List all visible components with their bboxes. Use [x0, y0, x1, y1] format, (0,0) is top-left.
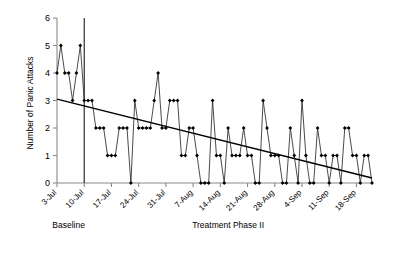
data-point-marker [312, 181, 316, 185]
y-tick-label: 1 [45, 151, 50, 161]
data-point-marker [145, 126, 149, 130]
x-tick-label: 10-Jul [64, 188, 86, 210]
data-point-marker [187, 126, 191, 130]
data-point-marker [242, 126, 246, 130]
x-tick-label: 11-Sep [306, 188, 331, 213]
data-point-marker [113, 154, 117, 158]
x-tick-label: 21-Aug [224, 188, 249, 213]
data-point-marker [90, 99, 94, 103]
data-point-marker [347, 126, 351, 130]
data-point-marker [308, 181, 312, 185]
data-point-marker [304, 154, 308, 158]
data-point-marker [82, 99, 86, 103]
data-point-marker [343, 126, 347, 130]
y-tick-label: 0 [45, 178, 50, 188]
data-point-marker [168, 99, 172, 103]
trend-line [57, 99, 372, 178]
y-axis-ticks: 0123456 [45, 13, 57, 188]
data-point-marker [191, 126, 195, 130]
data-point-marker [335, 154, 339, 158]
y-tick-label: 5 [45, 41, 50, 51]
data-point-marker [265, 126, 269, 130]
data-point-marker [207, 181, 211, 185]
x-axis-ticks: 3-Jul10-Jul17-Jul24-Jul31-Jul7-Aug14-Aug… [40, 183, 358, 213]
data-point-marker [160, 126, 164, 130]
data-point-marker [203, 181, 207, 185]
data-point-marker [351, 154, 355, 158]
data-point-marker [67, 71, 71, 75]
data-point-marker [176, 99, 180, 103]
x-tick-label: 24-Jul [118, 188, 140, 210]
data-point-marker [137, 126, 141, 130]
data-point-marker [362, 154, 366, 158]
data-point-marker [339, 181, 343, 185]
data-point-marker [257, 181, 261, 185]
data-point-marker [71, 99, 75, 103]
x-tick-label: 17-Jul [91, 188, 113, 210]
data-point-marker [156, 71, 160, 75]
x-tick-label: 4-Sep [282, 188, 304, 210]
data-point-marker [366, 154, 370, 158]
phase-labels-group: BaselineTreatment Phase II [52, 220, 264, 230]
x-tick-label: 28-Aug [252, 188, 277, 213]
data-point-marker [253, 181, 257, 185]
x-tick-label: 18-Sep [333, 188, 358, 213]
data-point-marker [125, 126, 129, 130]
x-tick-label: 31-Jul [146, 188, 168, 210]
data-point-marker [288, 126, 292, 130]
y-tick-label: 2 [45, 123, 50, 133]
data-point-marker [117, 126, 121, 130]
data-point-marker [195, 154, 199, 158]
data-point-marker [230, 154, 234, 158]
data-point-marker [55, 71, 59, 75]
x-tick-label: 3-Jul [40, 188, 59, 207]
data-point-marker [172, 99, 176, 103]
phase-label: Treatment Phase II [192, 220, 264, 230]
data-point-marker [358, 181, 362, 185]
data-point-marker [327, 181, 331, 185]
data-point-marker [238, 154, 242, 158]
data-point-marker [75, 71, 79, 75]
data-point-marker [269, 154, 273, 158]
data-point-marker [121, 126, 125, 130]
data-point-marker [86, 99, 90, 103]
data-point-marker [222, 181, 226, 185]
data-point-marker [296, 181, 300, 185]
panic-attacks-chart: Number of Panic Attacks 0123456 3-Jul10-… [0, 0, 410, 256]
data-point-marker [218, 154, 222, 158]
data-point-marker [102, 126, 106, 130]
data-point-marker [183, 154, 187, 158]
data-point-marker [250, 154, 254, 158]
chart-canvas: Number of Panic Attacks 0123456 3-Jul10-… [0, 0, 410, 256]
data-point-marker [234, 154, 238, 158]
y-tick-label: 3 [45, 96, 50, 106]
x-tick-label: 7-Aug [173, 188, 194, 209]
data-point-marker [285, 181, 289, 185]
data-point-marker [300, 99, 304, 103]
x-tick-label: 14-Aug [197, 188, 222, 213]
data-point-marker [199, 181, 203, 185]
data-point-marker [215, 154, 219, 158]
data-point-marker [141, 126, 145, 130]
data-point-marker [323, 154, 327, 158]
data-point-marker [292, 154, 296, 158]
data-point-marker [59, 44, 63, 48]
y-axis-title-group: Number of Panic Attacks [25, 56, 35, 149]
y-axis-title: Number of Panic Attacks [25, 56, 35, 149]
data-point-marker [148, 126, 152, 130]
y-tick-label: 6 [45, 13, 50, 23]
data-point-marker [94, 126, 98, 130]
phase-label: Baseline [52, 220, 85, 230]
data-point-marker [281, 181, 285, 185]
data-point-marker [246, 154, 250, 158]
data-point-marker [226, 126, 230, 130]
data-point-marker [320, 154, 324, 158]
y-tick-label: 4 [45, 68, 50, 78]
data-point-marker [133, 99, 137, 103]
data-point-marker [261, 99, 265, 103]
data-point-marker [63, 71, 67, 75]
data-point-marker [316, 126, 320, 130]
data-point-marker [355, 154, 359, 158]
data-point-marker [152, 99, 156, 103]
data-point-marker [110, 154, 114, 158]
